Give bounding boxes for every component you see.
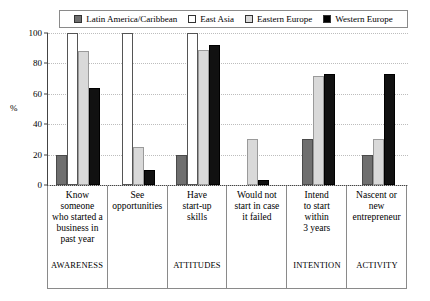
category-label: Know someone who started a business in p… (50, 190, 105, 245)
bar-chart: Latin America/Caribbean East Asia Easter… (0, 0, 430, 301)
legend-label: Latin America/Caribbean (86, 15, 177, 24)
bar-groups (48, 33, 408, 185)
bar (133, 147, 144, 185)
legend-label: Eastern Europe (257, 15, 312, 24)
bar (373, 139, 384, 185)
bar-group (348, 33, 408, 185)
bar (89, 88, 100, 185)
bar (176, 155, 187, 185)
y-tick-label: 60 (33, 89, 42, 99)
y-axis-title: % (10, 103, 18, 113)
legend-label: Western Europe (335, 15, 393, 24)
phase-label: AWARENESS (47, 255, 107, 275)
phase-label: INTENTION (287, 255, 347, 275)
bar (78, 51, 89, 185)
bar (313, 76, 324, 185)
bar (258, 180, 269, 185)
bar (144, 170, 155, 185)
legend-swatch-icon (74, 15, 82, 23)
phase-label: ACTIVITY (347, 255, 407, 275)
bar (362, 155, 373, 185)
legend-label: East Asia (200, 15, 234, 24)
bar (67, 33, 78, 185)
category-label: Would not start in case it failed (232, 190, 281, 223)
bar (324, 74, 335, 185)
y-tick-label: 100 (29, 28, 43, 38)
legend-item-western-europe: Western Europe (323, 15, 393, 24)
bar (247, 139, 258, 185)
category-label: Have start-up skills (181, 190, 214, 223)
y-tick-label: 20 (33, 150, 42, 160)
bar (198, 50, 209, 185)
bar (384, 74, 395, 185)
legend-item-latin-america-caribbean: Latin America/Caribbean (74, 15, 177, 24)
phase-label-row: AWARENESSATTITUDESINTENTIONACTIVITY (47, 255, 407, 275)
bar-group (288, 33, 348, 185)
bar (56, 155, 67, 185)
bar (122, 33, 133, 185)
bar-group (108, 33, 168, 185)
y-tick-label: 80 (33, 58, 42, 68)
legend-item-east-asia: East Asia (188, 15, 234, 24)
legend-swatch-icon (188, 15, 196, 23)
y-tick-label: 0 (38, 180, 43, 190)
legend-swatch-icon (245, 15, 253, 23)
legend-swatch-icon (323, 15, 331, 23)
bar (187, 33, 198, 185)
chart-legend: Latin America/Caribbean East Asia Easter… (59, 10, 408, 28)
phase-label: ATTITUDES (107, 255, 287, 275)
y-tick-label: 40 (33, 119, 42, 129)
bar (302, 139, 313, 185)
bar-group (168, 33, 228, 185)
bar (209, 45, 220, 185)
plot-area: 020406080100 (47, 33, 408, 186)
category-label: Intend to start within 3 years (301, 190, 332, 234)
legend-item-eastern-europe: Eastern Europe (245, 15, 312, 24)
category-label: Nascent or new entrepreneur (351, 190, 403, 223)
bar-group (228, 33, 288, 185)
bar-group (48, 33, 108, 185)
category-label: See opportunities (110, 190, 164, 212)
